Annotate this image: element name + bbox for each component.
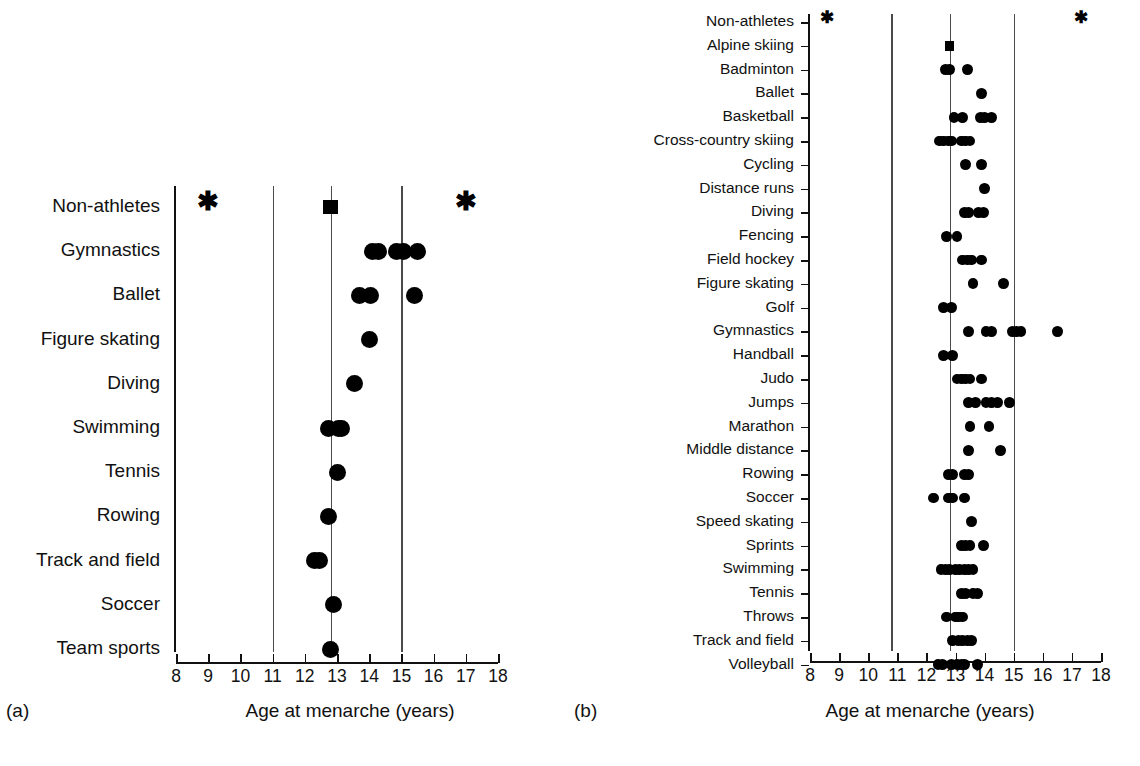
data-point xyxy=(320,508,337,525)
data-point xyxy=(966,255,977,266)
panel-tag-b: (b) xyxy=(574,700,597,722)
row-label-non-athletes: Non-athletes xyxy=(0,196,168,215)
x-axis-tick-label-11: 11 xyxy=(257,668,289,686)
x-axis-tick-18 xyxy=(1101,653,1103,662)
data-point xyxy=(965,421,976,432)
row-label-distance-runs: Distance runs xyxy=(570,180,802,196)
x-axis-tick-14 xyxy=(369,654,371,663)
category-tick xyxy=(801,260,809,262)
data-point xyxy=(322,641,339,658)
row-label-cross-country-skiing: Cross-country skiing xyxy=(570,132,802,148)
category-tick xyxy=(801,165,809,167)
x-axis-tick-label-15: 15 xyxy=(385,668,417,686)
x-axis-tick-8 xyxy=(810,653,812,662)
category-axis-spine xyxy=(174,186,176,652)
row-label-volleyball: Volleyball xyxy=(570,656,802,672)
category-tick xyxy=(801,236,809,238)
x-axis-tick-9 xyxy=(208,654,210,663)
row-label-gymnastics: Gymnastics xyxy=(570,322,802,338)
panel-tag-a: (a) xyxy=(6,700,29,722)
category-tick xyxy=(801,593,809,595)
data-point xyxy=(968,564,979,575)
category-tick xyxy=(801,331,809,333)
category-tick xyxy=(801,450,809,452)
data-point xyxy=(972,588,983,599)
category-tick xyxy=(801,22,809,24)
x-axis-tick-label-10: 10 xyxy=(224,668,256,686)
x-axis-tick-10 xyxy=(868,653,870,662)
data-point xyxy=(963,469,974,480)
x-axis-title: Age at menarche (years) xyxy=(180,700,520,722)
row-label-soccer: Soccer xyxy=(570,489,802,505)
data-point xyxy=(952,231,963,242)
data-point xyxy=(976,159,987,170)
data-point xyxy=(329,464,346,481)
row-label-rowing: Rowing xyxy=(570,465,802,481)
x-axis-tick-15 xyxy=(1014,653,1016,662)
category-tick xyxy=(801,212,809,214)
asterisk-marker: ✱ xyxy=(811,10,844,27)
summary-square-marker xyxy=(323,200,338,215)
data-point xyxy=(963,445,974,456)
data-point xyxy=(325,596,342,613)
category-tick xyxy=(801,117,809,119)
x-axis-tick-label-14: 14 xyxy=(353,668,385,686)
reference-line-10.8 xyxy=(891,14,892,651)
x-axis-tick-13 xyxy=(337,654,339,663)
row-label-fencing: Fencing xyxy=(570,227,802,243)
row-label-middle-distance: Middle distance xyxy=(570,441,802,457)
figure-root: 89101112131415161718Non-athletes✱✱Gymnas… xyxy=(0,0,1140,766)
x-axis-tick-15 xyxy=(401,654,403,663)
x-axis-tick-label-17: 17 xyxy=(450,668,482,686)
category-tick xyxy=(801,93,809,95)
data-point xyxy=(966,516,977,527)
data-point xyxy=(960,159,971,170)
x-axis-tick-9 xyxy=(839,653,841,662)
data-point xyxy=(957,612,968,623)
data-point xyxy=(346,375,363,392)
row-label-non-athletes: Non-athletes xyxy=(570,13,802,29)
data-point xyxy=(1052,326,1063,337)
reference-line-11 xyxy=(273,186,274,652)
data-point xyxy=(946,136,957,147)
data-point xyxy=(361,331,378,348)
row-label-field-hockey: Field hockey xyxy=(570,251,802,267)
row-label-swimming: Swimming xyxy=(570,560,802,576)
category-tick xyxy=(801,403,809,405)
data-point xyxy=(1016,326,1027,337)
data-point xyxy=(409,243,426,260)
data-point xyxy=(995,445,1006,456)
x-axis-tick-label-8: 8 xyxy=(160,668,192,686)
row-label-marathon: Marathon xyxy=(570,418,802,434)
x-axis-tick-11 xyxy=(273,654,275,663)
x-axis-tick-label-12: 12 xyxy=(289,668,321,686)
x-axis-tick-label-18: 18 xyxy=(482,668,514,686)
reference-line-12.8 xyxy=(950,14,951,651)
data-point xyxy=(970,397,981,408)
row-label-diving: Diving xyxy=(0,373,168,392)
reference-line-12.8 xyxy=(331,186,332,652)
x-axis-tick-label-17: 17 xyxy=(1056,667,1088,685)
data-point xyxy=(944,64,955,75)
row-label-jumps: Jumps xyxy=(570,394,802,410)
row-label-ballet: Ballet xyxy=(570,84,802,100)
category-tick xyxy=(801,617,809,619)
data-point xyxy=(370,243,387,260)
data-point xyxy=(963,326,974,337)
data-point xyxy=(946,302,957,313)
data-point xyxy=(1004,397,1015,408)
row-label-golf: Golf xyxy=(570,299,802,315)
asterisk-marker: ✱ xyxy=(182,188,235,214)
data-point xyxy=(986,112,997,123)
category-tick xyxy=(801,546,809,548)
data-point xyxy=(976,374,987,385)
summary-square-marker xyxy=(945,41,954,50)
row-label-speed-skating: Speed skating xyxy=(570,513,802,529)
data-point xyxy=(333,420,350,437)
category-tick xyxy=(801,522,809,524)
row-label-rowing: Rowing xyxy=(0,505,168,524)
category-tick xyxy=(801,355,809,357)
row-label-judo: Judo xyxy=(570,370,802,386)
data-point xyxy=(965,374,976,385)
row-label-gymnastics: Gymnastics xyxy=(0,240,168,259)
